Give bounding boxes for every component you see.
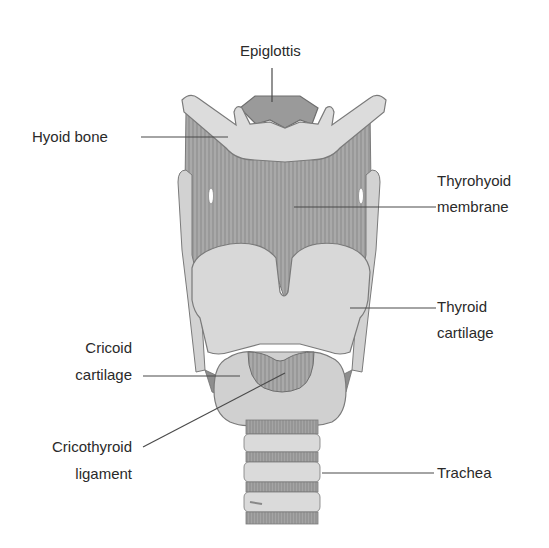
label-epiglottis: Epiglottis bbox=[240, 38, 301, 63]
label-cricoid-cartilage-line1: Cricoid bbox=[40, 335, 132, 360]
label-cricothyroid-ligament-line1: Cricothyroid bbox=[20, 434, 132, 459]
label-cricoid-cartilage-line2: cartilage bbox=[40, 362, 132, 387]
label-thyrohyoid-membrane-line2: membrane bbox=[437, 194, 509, 219]
label-cricothyroid-ligament-line2: ligament bbox=[20, 461, 132, 486]
label-trachea: Trachea bbox=[437, 460, 491, 485]
label-thyroid-cartilage-line2: cartilage bbox=[437, 320, 494, 345]
label-thyrohyoid-membrane-line1: Thyrohyoid bbox=[437, 168, 511, 193]
trachea-shape bbox=[244, 420, 320, 524]
label-hyoid-bone: Hyoid bone bbox=[32, 124, 108, 149]
label-thyroid-cartilage-line1: Thyroid bbox=[437, 294, 487, 319]
larynx-diagram: Epiglottis Hyoid bone Thyrohyoid membran… bbox=[0, 0, 549, 548]
